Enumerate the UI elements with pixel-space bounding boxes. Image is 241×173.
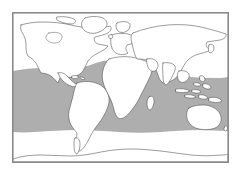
map-frame [12,12,229,163]
figure-root [0,0,241,173]
land-british-isles [109,35,113,39]
land-caribbean [72,76,79,79]
world-map [13,13,228,162]
